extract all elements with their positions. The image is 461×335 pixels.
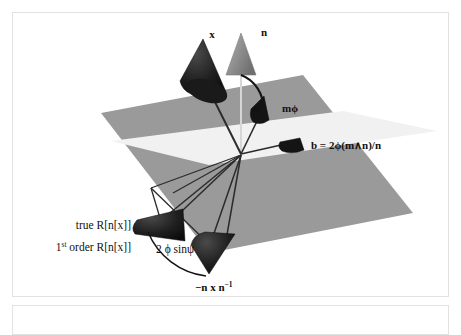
vector-rotation-diagram: x n ψ mϕ b = 2ϕ(m∧n)/n true R[n[x]] 1st … <box>13 13 450 298</box>
label-psi-angle: ψ <box>252 102 260 114</box>
n-arrowhead-icon <box>226 33 256 75</box>
label-x-vector: x <box>209 28 215 40</box>
label-two-phi-sin-psi: 2 ϕ sinψ <box>156 243 195 256</box>
label-n-vector: n <box>261 26 267 38</box>
label-nxninv-superscript: −1 <box>225 280 233 289</box>
figure-panel: x n ψ mϕ b = 2ϕ(m∧n)/n true R[n[x]] 1st … <box>12 12 449 297</box>
nxninv-cone-icon <box>191 232 235 274</box>
label-m-phi: mϕ <box>282 102 298 114</box>
label-first-order-rest: order R[n[x]] <box>66 241 131 253</box>
nxninv-cone-group <box>191 232 235 274</box>
label-b-formula: b = 2ϕ(m∧n)/n <box>311 139 381 152</box>
label-true-rotation: true R[n[x]] <box>76 219 131 231</box>
caption-panel-below <box>12 305 449 335</box>
label-first-order-rotation: 1st order R[n[x]] <box>56 240 131 254</box>
label-nxninv-main: −n x n <box>195 281 225 293</box>
label-minus-n-x-n-inverse: −n x n−1 <box>195 280 233 294</box>
